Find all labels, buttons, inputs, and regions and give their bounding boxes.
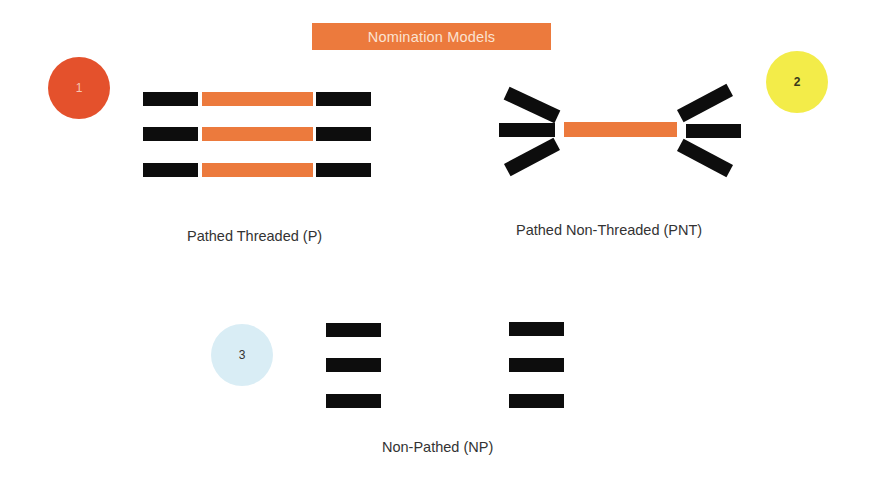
pnt-left-bar-upper — [504, 87, 561, 123]
np-right-bar-1 — [509, 322, 564, 336]
model-2-label: Pathed Non-Threaded (PNT) — [516, 222, 702, 238]
pathed-non-threaded-diagram — [0, 0, 871, 489]
np-right-bar-3 — [509, 394, 564, 408]
pnt-right-bar-middle — [686, 124, 741, 138]
pnt-left-bar-lower — [504, 138, 560, 177]
pnt-left-bar-middle — [499, 123, 555, 137]
np-left-bar-1 — [326, 323, 381, 337]
model-3-label: Non-Pathed (NP) — [382, 439, 493, 455]
np-left-bar-2 — [326, 358, 381, 372]
np-left-bar-3 — [326, 394, 381, 408]
pnt-path-bar — [564, 122, 677, 137]
pnt-right-bar-lower — [677, 139, 733, 178]
np-right-bar-2 — [509, 358, 564, 372]
pnt-right-bar-upper — [677, 84, 733, 123]
model-3-badge: 3 — [211, 324, 273, 386]
model-3-number: 3 — [239, 348, 246, 362]
